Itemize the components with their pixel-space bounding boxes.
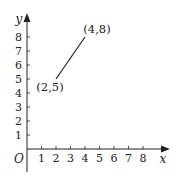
data-series — [56, 37, 85, 79]
point-label: (4,8) — [83, 22, 110, 36]
origin-label: O — [14, 152, 24, 166]
x-tick-label: 8 — [140, 152, 147, 165]
point-label: (2,5) — [36, 80, 63, 94]
x-tick-label: 6 — [111, 152, 118, 165]
plot-svg: 1234567812345678xyO(2,5)(4,8) — [0, 0, 180, 176]
y-tick-label: 7 — [15, 45, 22, 58]
y-tick-label: 6 — [15, 59, 22, 72]
x-tick-label: 5 — [96, 152, 103, 165]
y-tick-label: 5 — [15, 73, 22, 86]
y-tick-label: 1 — [15, 129, 22, 142]
x-tick-label: 2 — [53, 152, 60, 165]
y-tick-label: 3 — [15, 101, 22, 114]
x-tick-label: 1 — [38, 152, 45, 165]
line-segment — [56, 37, 85, 79]
x-tick-label: 3 — [67, 152, 74, 165]
x-axis-label: x — [160, 152, 167, 166]
x-tick-label: 4 — [82, 152, 89, 165]
y-tick-label: 2 — [15, 115, 22, 128]
labels: 1234567812345678xyO(2,5)(4,8) — [14, 12, 167, 166]
coordinate-plane: 1234567812345678xyO(2,5)(4,8) — [0, 0, 180, 176]
y-axis-arrow-icon — [24, 13, 31, 22]
y-tick-label: 8 — [15, 31, 22, 44]
y-tick-label: 4 — [15, 87, 22, 100]
x-tick-label: 7 — [125, 152, 132, 165]
y-axis-label: y — [15, 12, 23, 26]
